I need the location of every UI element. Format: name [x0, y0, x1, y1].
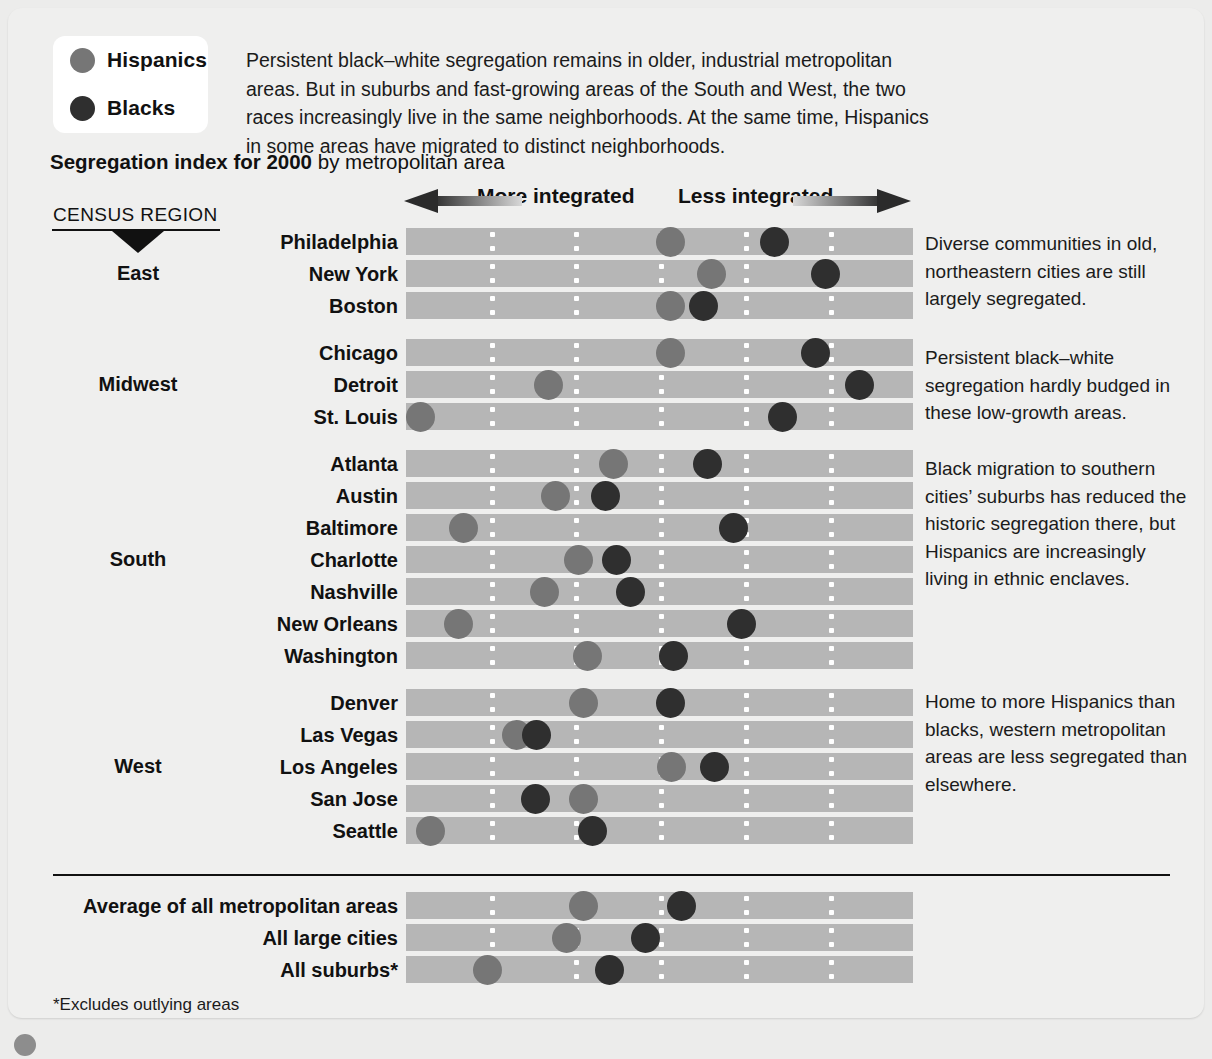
grid-tick	[744, 550, 749, 555]
grid-tick	[490, 646, 495, 651]
grid-tick	[744, 757, 749, 762]
grid-tick	[829, 389, 834, 394]
data-point-hispanics	[569, 784, 598, 814]
grid-tick	[490, 835, 495, 840]
grid-tick	[829, 232, 834, 237]
grid-tick	[490, 693, 495, 698]
grid-tick	[659, 614, 664, 619]
grid-tick	[574, 310, 579, 315]
grid-tick	[574, 246, 579, 251]
grid-tick	[744, 357, 749, 362]
grid-tick	[829, 835, 834, 840]
note-south: Black migration to southern cities’ subu…	[925, 455, 1187, 593]
grid-tick	[490, 550, 495, 555]
grid-tick	[490, 725, 495, 730]
grid-tick	[829, 942, 834, 947]
grid-tick	[744, 660, 749, 665]
grid-tick	[490, 771, 495, 776]
section-divider	[53, 874, 1170, 876]
grid-tick	[574, 343, 579, 348]
data-point-blacks	[719, 513, 748, 543]
grid-tick	[744, 821, 749, 826]
grid-tick	[829, 550, 834, 555]
data-point-blacks	[659, 641, 688, 671]
grid-tick	[490, 246, 495, 251]
data-point-hispanics	[657, 752, 686, 782]
metro-row-label: New Orleans	[48, 613, 398, 636]
grid-tick	[490, 821, 495, 826]
grid-tick	[574, 389, 579, 394]
grid-tick	[659, 789, 664, 794]
grid-tick	[574, 739, 579, 744]
grid-tick	[490, 264, 495, 269]
grid-tick	[659, 550, 664, 555]
grid-tick	[574, 628, 579, 633]
data-point-hispanics	[697, 259, 726, 289]
grid-tick	[744, 835, 749, 840]
grid-tick	[829, 928, 834, 933]
metro-row-label: San Jose	[48, 788, 398, 811]
grid-tick	[829, 821, 834, 826]
summary-row-label: All large cities	[48, 927, 398, 950]
data-point-blacks	[768, 402, 797, 432]
data-point-blacks	[667, 891, 696, 921]
grid-tick	[659, 582, 664, 587]
grid-tick	[574, 614, 579, 619]
grid-tick	[744, 486, 749, 491]
data-point-hispanics	[564, 545, 593, 575]
grid-tick	[829, 246, 834, 251]
data-point-blacks	[700, 752, 729, 782]
grid-tick	[574, 596, 579, 601]
data-point-blacks	[595, 955, 624, 985]
data-point-hispanics	[656, 227, 685, 257]
grid-tick	[659, 739, 664, 744]
grid-tick	[744, 310, 749, 315]
grid-tick	[490, 518, 495, 523]
grid-tick	[829, 757, 834, 762]
data-point-blacks	[631, 923, 660, 953]
region-label-midwest: Midwest	[48, 373, 228, 396]
grid-tick	[659, 532, 664, 537]
grid-tick	[659, 264, 664, 269]
grid-tick	[829, 960, 834, 965]
grid-tick	[829, 518, 834, 523]
summary-row-label: Average of all metropolitan areas	[48, 895, 398, 918]
grid-tick	[829, 310, 834, 315]
grid-tick	[574, 375, 579, 380]
note-east: Diverse communities in old, northeastern…	[925, 230, 1187, 313]
grid-tick	[659, 821, 664, 826]
grid-tick	[744, 725, 749, 730]
data-point-blacks	[801, 338, 830, 368]
grid-tick	[744, 468, 749, 473]
grid-tick	[490, 614, 495, 619]
metro-row-label: Boston	[48, 295, 398, 318]
grid-tick	[490, 789, 495, 794]
metro-row-label: Las Vegas	[48, 724, 398, 747]
region-label-south: South	[48, 548, 228, 571]
grid-tick	[744, 407, 749, 412]
grid-tick	[659, 960, 664, 965]
grid-tick	[659, 974, 664, 979]
grid-tick	[574, 421, 579, 426]
grid-tick	[829, 454, 834, 459]
infographic-card: Hispanics Blacks Persistent black–white …	[8, 8, 1204, 1018]
data-point-hispanics	[444, 609, 473, 639]
data-point-blacks	[521, 784, 550, 814]
grid-tick	[659, 421, 664, 426]
data-point-blacks	[591, 481, 620, 511]
grid-tick	[659, 468, 664, 473]
grid-tick	[659, 910, 664, 915]
grid-tick	[829, 486, 834, 491]
grid-tick	[744, 500, 749, 505]
data-point-hispanics	[416, 816, 445, 846]
grid-tick	[744, 454, 749, 459]
data-point-blacks	[693, 449, 722, 479]
grid-tick	[574, 582, 579, 587]
grid-tick	[829, 660, 834, 665]
grid-tick	[659, 725, 664, 730]
grid-tick	[744, 707, 749, 712]
grid-tick	[744, 974, 749, 979]
grid-tick	[490, 739, 495, 744]
grid-tick	[490, 596, 495, 601]
grid-tick	[490, 910, 495, 915]
